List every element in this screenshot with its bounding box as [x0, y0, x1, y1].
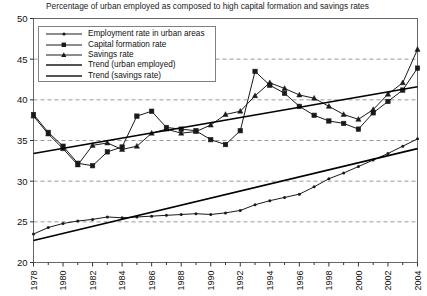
- chart-legend: Employment rate in urban areasCapital fo…: [38, 26, 216, 82]
- data-point-dot: [254, 203, 257, 206]
- x-tick-label-group: 1986: [147, 271, 157, 291]
- series-line: [34, 68, 418, 166]
- data-point-dot: [313, 185, 316, 188]
- legend-symbol-icon: [42, 40, 86, 50]
- data-point-square: [327, 119, 331, 123]
- data-point-dot: [76, 220, 79, 223]
- legend-symbol-icon: [42, 60, 86, 70]
- legend-item-0: Employment rate in urban areas: [42, 29, 212, 39]
- data-point-triangle: [415, 47, 420, 52]
- data-point-square: [238, 129, 242, 133]
- data-point-square: [90, 164, 94, 168]
- x-tick-label: 1990: [206, 271, 216, 291]
- data-point-dot: [386, 152, 389, 155]
- x-tick-label-group: 1984: [117, 271, 127, 291]
- legend-symbol-icon: [42, 29, 86, 39]
- y-tick-label: 40: [17, 94, 28, 105]
- data-point-dot: [283, 196, 286, 199]
- data-point-dot: [106, 215, 109, 218]
- x-tick-label-group: 1988: [176, 271, 186, 291]
- y-tick-label: 30: [17, 176, 28, 187]
- data-point-dot: [165, 214, 168, 217]
- x-tick-label: 2000: [354, 271, 364, 291]
- data-point-square: [209, 137, 213, 141]
- data-point-dot: [180, 213, 183, 216]
- legend-label: Savings rate: [88, 50, 134, 60]
- x-tick-label-group: 1982: [88, 271, 98, 291]
- data-point-dot: [209, 213, 212, 216]
- y-tick-label: 50: [17, 13, 28, 24]
- y-tick-label: 45: [17, 54, 28, 65]
- data-point-square: [312, 113, 316, 117]
- x-tick-label: 1998: [324, 271, 334, 291]
- x-tick-label: 2002: [383, 271, 393, 291]
- data-point-square: [105, 150, 109, 154]
- data-point-dot: [224, 211, 227, 214]
- y-tick-label: 25: [17, 216, 28, 227]
- data-point-dot: [62, 222, 65, 225]
- x-tick-label-group: 2002: [383, 271, 393, 291]
- data-point-square: [135, 114, 139, 118]
- data-point-triangle: [400, 80, 405, 85]
- legend-item-3: Trend (urban employed): [42, 60, 212, 70]
- x-tick-label: 1978: [29, 271, 39, 291]
- x-tick-label: 1982: [88, 271, 98, 291]
- x-tick-label: 2004: [413, 271, 423, 291]
- legend-label: Trend (urban employed): [88, 60, 176, 70]
- x-tick-label: 1988: [176, 271, 186, 291]
- y-tick-label: 20: [17, 257, 28, 268]
- data-point-square: [341, 121, 345, 125]
- legend-item-1: Capital formation rate: [42, 39, 212, 49]
- chart-figure: Percentage of urban employed as composed…: [0, 0, 427, 296]
- y-tick-label: 35: [17, 135, 28, 146]
- legend-label: Trend (savings rate): [88, 71, 161, 81]
- data-point-triangle: [267, 80, 272, 85]
- x-tick-label: 1992: [235, 271, 245, 291]
- data-point-square: [282, 91, 286, 95]
- data-point-dot: [239, 209, 242, 212]
- legend-label: Employment rate in urban areas: [88, 29, 205, 39]
- series-0: [32, 137, 419, 235]
- data-point-dot: [327, 177, 330, 180]
- data-point-dot: [150, 215, 153, 218]
- x-tick-label: 1996: [295, 271, 305, 291]
- data-point-square: [253, 69, 257, 73]
- data-point-square: [223, 142, 227, 146]
- legend-item-2: Savings rate: [42, 50, 212, 60]
- x-tick-label-group: 1992: [235, 271, 245, 291]
- data-point-triangle: [326, 104, 331, 109]
- x-tick-label-group: 1990: [206, 271, 216, 291]
- x-tick-label: 1984: [117, 271, 127, 291]
- data-point-dot: [91, 218, 94, 221]
- data-point-dot: [268, 199, 271, 202]
- x-tick-label: 1994: [265, 271, 275, 291]
- x-tick-label-group: 2004: [413, 271, 423, 291]
- x-tick-label-group: 1994: [265, 271, 275, 291]
- data-point-dot: [342, 172, 345, 175]
- legend-symbol-icon: [42, 71, 86, 81]
- legend-label: Capital formation rate: [88, 40, 166, 50]
- legend-item-4: Trend (savings rate): [42, 71, 212, 81]
- data-point-dot: [401, 145, 404, 148]
- x-tick-label: 1980: [58, 271, 68, 291]
- legend-symbol-icon: [42, 50, 86, 60]
- trend-line-0: [34, 149, 418, 241]
- data-point-dot: [194, 212, 197, 215]
- data-point-dot: [47, 226, 50, 229]
- data-point-dot: [357, 165, 360, 168]
- data-point-square: [149, 109, 153, 113]
- data-point-square: [356, 127, 360, 131]
- x-tick-label-group: 2000: [354, 271, 364, 291]
- x-tick-label: 1986: [147, 271, 157, 291]
- data-point-square: [386, 99, 390, 103]
- series-line: [34, 139, 418, 234]
- data-point-triangle: [341, 112, 346, 117]
- data-point-dot: [298, 193, 301, 196]
- data-point-square: [415, 66, 419, 70]
- data-point-dot: [416, 137, 419, 140]
- data-point-dot: [32, 233, 35, 236]
- x-tick-label-group: 1978: [29, 271, 39, 291]
- x-tick-label-group: 1980: [58, 271, 68, 291]
- x-tick-label-group: 1998: [324, 271, 334, 291]
- x-tick-label-group: 1996: [295, 271, 305, 291]
